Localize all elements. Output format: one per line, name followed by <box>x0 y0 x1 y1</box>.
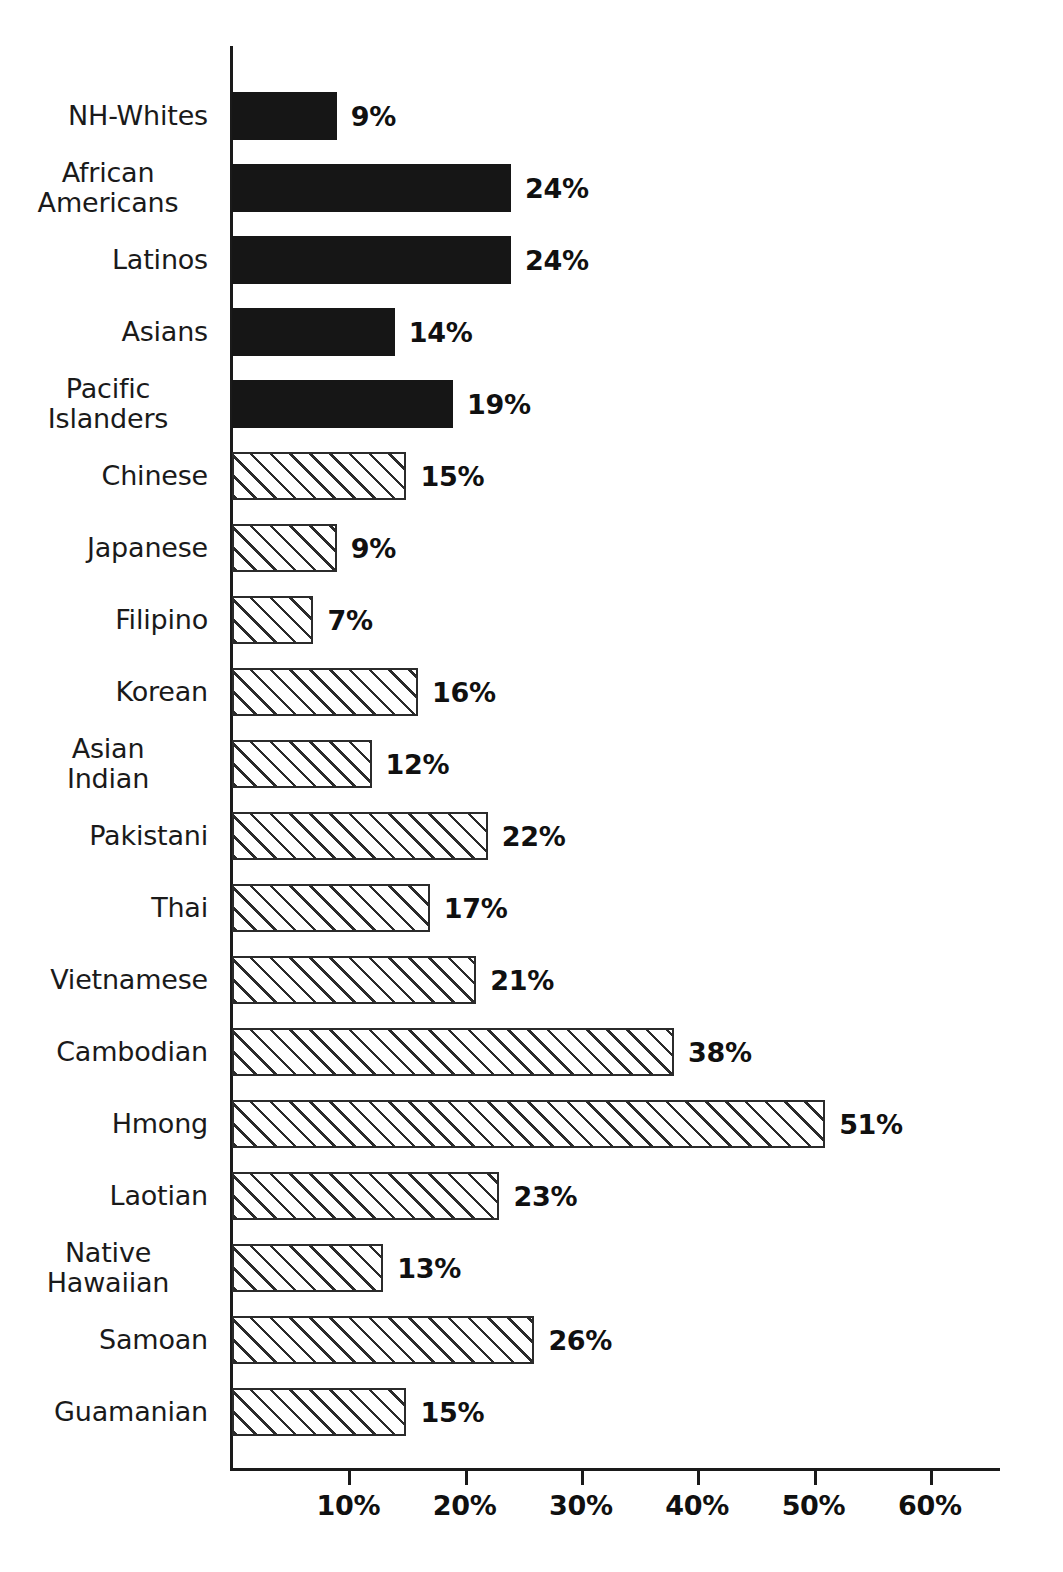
bar-row: Hmong51% <box>0 1100 1063 1172</box>
category-label-line: Asian <box>72 734 145 765</box>
category-label: Vietnamese <box>8 956 208 1004</box>
category-label: Japanese <box>8 524 208 572</box>
bar-row: Pakistani22% <box>0 812 1063 884</box>
bar-value-label: 24% <box>525 164 589 212</box>
bar-value-label: 51% <box>839 1100 903 1148</box>
category-label: AsianIndian <box>8 740 208 788</box>
bar-track <box>232 1172 499 1220</box>
bar-row: NH-Whites9% <box>0 92 1063 164</box>
category-label: Samoan <box>8 1316 208 1364</box>
category-label-line: Guamanian <box>54 1397 208 1428</box>
bar <box>232 596 313 644</box>
bar-row: Guamanian15% <box>0 1388 1063 1460</box>
x-axis-tick <box>697 1468 700 1485</box>
category-label-line: Filipino <box>115 605 208 636</box>
bar-value-label: 7% <box>327 596 372 644</box>
x-axis-ticks: 10%20%30%40%50%60% <box>0 1468 1063 1568</box>
bar-track <box>232 812 488 860</box>
category-label-line: NH-Whites <box>68 101 208 132</box>
category-label: Thai <box>8 884 208 932</box>
bar <box>232 1316 534 1364</box>
bar-track <box>232 668 418 716</box>
bar-row: Latinos24% <box>0 236 1063 308</box>
bar-row: PacificIslanders19% <box>0 380 1063 452</box>
bar-value-label: 24% <box>525 236 589 284</box>
bar <box>232 452 406 500</box>
category-label: AfricanAmericans <box>8 164 208 212</box>
bar-row: Japanese9% <box>0 524 1063 596</box>
x-axis-tick-label: 30% <box>521 1490 641 1521</box>
category-label-line: Chinese <box>102 461 208 492</box>
category-label: Cambodian <box>8 1028 208 1076</box>
bar-value-label: 16% <box>432 668 496 716</box>
bar-track <box>232 884 430 932</box>
category-label-line: Japanese <box>87 533 208 564</box>
bar-value-label: 15% <box>420 452 484 500</box>
category-label-line: African <box>62 158 155 189</box>
bar <box>232 164 511 212</box>
category-label-line: Hawaiian <box>47 1268 170 1299</box>
category-label-line: Asians <box>121 317 208 348</box>
x-axis-tick-label: 20% <box>405 1490 525 1521</box>
bar-row: Cambodian38% <box>0 1028 1063 1100</box>
bar-row: NativeHawaiian13% <box>0 1244 1063 1316</box>
bar-track <box>232 596 313 644</box>
bar-value-label: 26% <box>548 1316 612 1364</box>
bar-rows: NH-Whites9%AfricanAmericans24%Latinos24%… <box>0 92 1063 1460</box>
bar <box>232 956 476 1004</box>
bar <box>232 812 488 860</box>
bar <box>232 1100 825 1148</box>
bar-value-label: 38% <box>688 1028 752 1076</box>
bar <box>232 668 418 716</box>
bar-value-label: 14% <box>409 308 473 356</box>
bar-track <box>232 1028 674 1076</box>
category-label: Latinos <box>8 236 208 284</box>
category-label: Korean <box>8 668 208 716</box>
bar-row: Vietnamese21% <box>0 956 1063 1028</box>
bar-row: Asians14% <box>0 308 1063 380</box>
bar-value-label: 19% <box>467 380 531 428</box>
category-label: Chinese <box>8 452 208 500</box>
category-label-line: Cambodian <box>56 1037 208 1068</box>
bar-track <box>232 1388 406 1436</box>
bar-row: Chinese15% <box>0 452 1063 524</box>
category-label: Filipino <box>8 596 208 644</box>
x-axis-tick <box>930 1468 933 1485</box>
bar-value-label: 12% <box>386 740 450 788</box>
category-label-line: Vietnamese <box>50 965 208 996</box>
bar-track <box>232 236 511 284</box>
bar-value-label: 15% <box>420 1388 484 1436</box>
bar <box>232 236 511 284</box>
x-axis-tick-label: 60% <box>870 1490 990 1521</box>
category-label-line: Native <box>65 1238 151 1269</box>
category-label: Asians <box>8 308 208 356</box>
category-label-line: Thai <box>151 893 208 924</box>
bar-value-label: 17% <box>444 884 508 932</box>
bar <box>232 884 430 932</box>
category-label-line: Korean <box>116 677 208 708</box>
bar <box>232 1244 383 1292</box>
horizontal-bar-chart: NH-Whites9%AfricanAmericans24%Latinos24%… <box>0 0 1063 1572</box>
bar-track <box>232 380 453 428</box>
bar-value-label: 21% <box>490 956 554 1004</box>
bar-track <box>232 164 511 212</box>
category-label: NH-Whites <box>8 92 208 140</box>
category-label: Guamanian <box>8 1388 208 1436</box>
bar <box>232 92 337 140</box>
x-axis-tick <box>814 1468 817 1485</box>
bar-row: AfricanAmericans24% <box>0 164 1063 236</box>
plot-area: NH-Whites9%AfricanAmericans24%Latinos24%… <box>0 0 1063 1572</box>
bar <box>232 308 395 356</box>
category-label: Laotian <box>8 1172 208 1220</box>
bar <box>232 1172 499 1220</box>
bar <box>232 740 372 788</box>
bar-track <box>232 92 337 140</box>
category-label-line: Pakistani <box>89 821 208 852</box>
bar <box>232 1388 406 1436</box>
category-label: Pakistani <box>8 812 208 860</box>
category-label: Hmong <box>8 1100 208 1148</box>
category-label-line: Laotian <box>110 1181 208 1212</box>
category-label-line: Samoan <box>99 1325 208 1356</box>
x-axis-tick-label: 50% <box>754 1490 874 1521</box>
x-axis-tick <box>581 1468 584 1485</box>
